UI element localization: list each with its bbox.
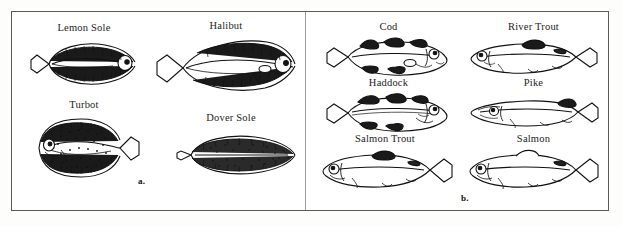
panel-b-roundfish: Cod xyxy=(306,0,609,227)
fish-label-dover-sole: Dover Sole xyxy=(161,112,301,124)
fish-label-salmon: Salmon xyxy=(461,133,606,145)
salmon-trout-icon xyxy=(318,148,458,194)
fish-plate: Lemon Sole xyxy=(0,0,622,227)
panel-marker-a: a. xyxy=(138,176,145,186)
panel-a-flatfish: Lemon Sole xyxy=(11,0,305,227)
panel-marker-b: b. xyxy=(461,193,469,203)
fish-label-cod: Cod xyxy=(316,21,461,33)
river-trout-icon xyxy=(466,38,602,78)
lemon-sole-icon xyxy=(25,38,143,90)
salmon-icon xyxy=(466,148,604,194)
fish-label-pike: Pike xyxy=(461,77,606,89)
dover-sole-icon xyxy=(169,130,301,180)
pike-icon xyxy=(466,92,602,134)
fish-label-halibut: Halibut xyxy=(151,20,301,32)
haddock-icon xyxy=(322,92,454,134)
fish-label-river-trout: River Trout xyxy=(461,21,606,33)
turbot-icon xyxy=(25,114,143,182)
fish-label-lemon-sole: Lemon Sole xyxy=(19,22,149,34)
fish-label-haddock: Haddock xyxy=(316,77,461,89)
halibut-icon xyxy=(153,36,301,96)
cod-icon xyxy=(322,36,454,78)
fish-label-turbot: Turbot xyxy=(19,99,149,111)
fish-label-salmon-trout: Salmon Trout xyxy=(310,133,460,145)
